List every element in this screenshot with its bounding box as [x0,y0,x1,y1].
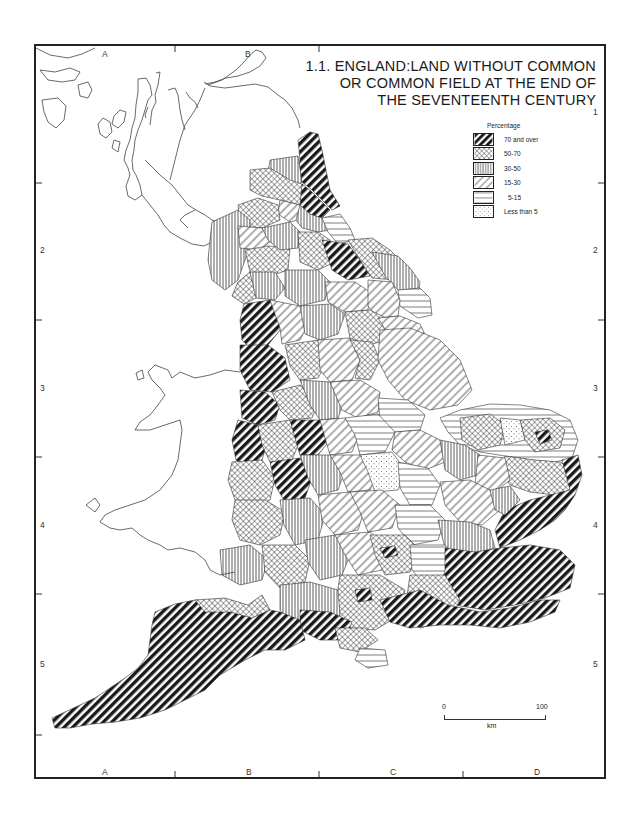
pattern-dense-diagonal-swatch [473,133,494,146]
grid-row-right-2: 2 [593,245,598,255]
legend-item: 50-70 [473,147,563,162]
pattern-vertical-lines-swatch [473,162,494,175]
legend-label: Less than 5 [504,208,538,215]
scale-unit: km [487,722,496,729]
legend-item: 5-15 [473,190,563,205]
grid-col-bottom-a: A [102,767,108,777]
grid-row-left-3: 3 [40,383,45,393]
grid-col-bottom-d: D [534,767,540,777]
scale-bar: 0 100 km [440,703,550,733]
grid-col-top-a: A [102,49,108,59]
grid-row-right-3: 3 [593,383,598,393]
legend-label: 15-30 [504,179,521,186]
legend-item: Less than 5 [473,205,563,220]
grid-row-left-2: 2 [40,245,45,255]
grid-col-bottom-b: B [246,767,252,777]
scale-end: 100 [536,703,548,710]
pattern-wide-diagonal-swatch [473,176,494,189]
grid-row-right-1: 1 [593,107,598,117]
legend: Percentage 70 and over 50-70 30-50 15-30… [473,122,563,219]
grid-row-left-4: 4 [40,520,45,530]
title-line-3: THE SEVENTEENTH CENTURY [305,92,596,109]
scale-line [444,715,546,720]
scale-start: 0 [442,703,446,710]
legend-item: 30-50 [473,161,563,176]
grid-col-bottom-c: C [390,767,396,777]
legend-title: Percentage [473,122,563,129]
legend-item: 15-30 [473,176,563,191]
legend-label: 50-70 [504,150,521,157]
legend-label: 70 and over [504,136,538,143]
pattern-horizontal-lines-swatch [473,191,494,204]
title-line-1: 1.1. ENGLAND:LAND WITHOUT COMMON [305,58,596,75]
pattern-dots-swatch [473,205,494,218]
legend-label: 5-15 [504,194,521,201]
grid-row-right-4: 4 [593,520,598,530]
legend-item: 70 and over [473,132,563,147]
pattern-crosshatch-swatch [473,147,494,160]
title-line-2: OR COMMON FIELD AT THE END OF [305,75,596,92]
map-title: 1.1. ENGLAND:LAND WITHOUT COMMON OR COMM… [305,58,596,109]
grid-row-right-5: 5 [593,659,598,669]
grid-row-left-5: 5 [40,659,45,669]
grid-col-top-b: B [245,49,251,59]
legend-label: 30-50 [504,165,521,172]
